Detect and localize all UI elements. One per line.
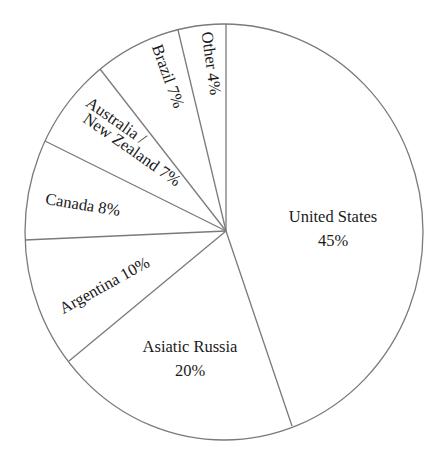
- label-canada: Canada 8%: [44, 189, 122, 220]
- label-brazil: Brazil 7%: [148, 42, 189, 111]
- label-other: Other 4%: [198, 30, 226, 96]
- label-united-states-value: 45%: [318, 231, 349, 250]
- slice-boundary-us-russia: [226, 231, 292, 426]
- slice-boundary-argentina-canada: [25, 231, 226, 240]
- label-argentina: Argentina 10%: [56, 253, 153, 318]
- label-asiatic-russia-value: 20%: [175, 361, 206, 380]
- label-asiatic-russia-name: Asiatic Russia: [143, 337, 239, 356]
- label-united-states-name: United States: [289, 207, 377, 226]
- pie-chart: United States 45% Asiatic Russia 20% Arg…: [0, 0, 445, 461]
